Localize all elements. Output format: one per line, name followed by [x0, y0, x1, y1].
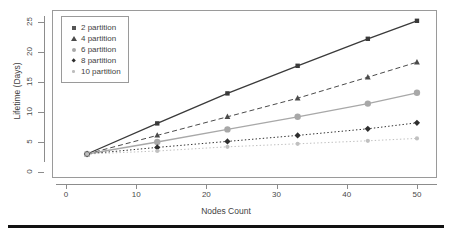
data-point [224, 138, 230, 144]
bottom-divider [8, 225, 444, 228]
chart-legend: 2 partition4 partition6 partition8 parti… [61, 16, 129, 83]
y-tick [38, 22, 44, 23]
data-point [415, 136, 419, 140]
data-point [295, 64, 299, 68]
data-point [85, 152, 89, 156]
triangle-marker-icon [67, 33, 80, 44]
x-tick [417, 184, 418, 189]
chart-figure: 0510152025 01020304050 Lifetime (Days) N… [0, 0, 452, 238]
data-point [415, 19, 419, 23]
legend-item-1[interactable]: 2 partition [67, 22, 121, 33]
y-tick [38, 82, 44, 83]
x-tick-label: 40 [334, 190, 360, 199]
data-point [224, 126, 230, 132]
legend-item-label: 2 partition [81, 23, 116, 32]
legend-item-3[interactable]: 6 partition [67, 44, 121, 55]
data-point [294, 114, 300, 120]
x-tick-label: 50 [404, 190, 430, 199]
legend-item-label: 8 partition [81, 56, 116, 65]
y-tick-label: 15 [25, 73, 34, 91]
diamond-marker-icon [67, 55, 80, 66]
series-3 [84, 90, 420, 158]
circle-marker-icon [67, 44, 80, 55]
y-axis-title: Lifetime (Days) [12, 36, 22, 146]
data-point [295, 132, 301, 138]
legend-item-label: 4 partition [81, 34, 116, 43]
legend-item-label: 10 partition [81, 67, 121, 76]
data-point [365, 126, 371, 132]
data-point [414, 59, 420, 64]
legend-item-2[interactable]: 4 partition [67, 33, 121, 44]
x-tick [206, 184, 207, 189]
x-tick-label: 30 [264, 190, 290, 199]
legend-item-5[interactable]: 10 partition [67, 66, 121, 77]
data-point [365, 74, 371, 79]
series-1 [85, 19, 419, 157]
data-point [225, 145, 229, 149]
x-axis-line [56, 184, 437, 185]
x-tick-label: 0 [53, 190, 79, 199]
dot-marker-icon [67, 66, 80, 77]
data-point [225, 91, 229, 95]
y-tick [38, 172, 44, 173]
square-marker-icon [67, 22, 80, 33]
x-tick [347, 184, 348, 189]
y-tick [38, 52, 44, 53]
y-tick [38, 112, 44, 113]
y-axis-line [44, 16, 45, 162]
y-tick-label: 5 [25, 133, 34, 151]
y-tick-label: 20 [25, 43, 34, 61]
data-point [366, 139, 370, 143]
x-axis-title: Nodes Count [0, 206, 452, 216]
y-tick [38, 142, 44, 143]
legend-item-4[interactable]: 8 partition [67, 55, 121, 66]
data-point [155, 149, 159, 153]
y-tick-label: 25 [25, 13, 34, 31]
x-tick-label: 10 [123, 190, 149, 199]
y-tick-label: 10 [25, 103, 34, 121]
data-point [155, 121, 159, 125]
data-point [414, 90, 420, 96]
x-tick-label: 20 [193, 190, 219, 199]
x-tick [136, 184, 137, 189]
data-point [296, 142, 300, 146]
legend-item-label: 6 partition [81, 45, 116, 54]
data-point [365, 100, 371, 106]
data-point [414, 120, 420, 126]
y-tick-label: 0 [25, 163, 34, 181]
data-point [154, 139, 160, 145]
x-tick [66, 184, 67, 189]
data-point [366, 37, 370, 41]
x-tick [277, 184, 278, 189]
